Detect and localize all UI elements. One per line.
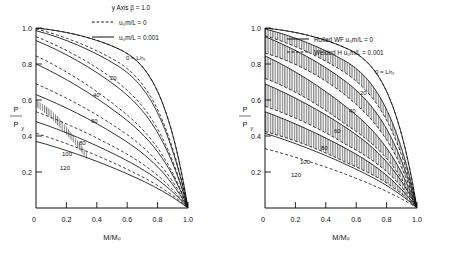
y-tick-0.4-left: 0.4 bbox=[22, 132, 32, 141]
x-tick-0.6-left: 0.6 bbox=[122, 215, 132, 224]
curve-annotation-20-left: 20 bbox=[110, 75, 117, 81]
figure-root: y Axis β = 1.0 u₀m/L = 0 u₀m/L = 0.001 bbox=[0, 0, 458, 261]
legend-label-solid-left: u₀m/L = 0.001 bbox=[119, 34, 159, 41]
curve-annotation-100-right: 100 bbox=[300, 159, 311, 165]
curve-annotations-left: 0 = L/rᵧ 20 40 60 80 100 120 bbox=[60, 55, 145, 171]
x-tick-0.8-right: 0.8 bbox=[382, 215, 392, 224]
y-tick-0.2-left: 0.2 bbox=[22, 168, 32, 177]
y-tick-0.2-right: 0.2 bbox=[251, 168, 261, 177]
curve-annotation-40-right: 40 bbox=[349, 108, 356, 114]
legend-header-left: y Axis β = 1.0 bbox=[112, 4, 151, 12]
svg-text:P: P bbox=[14, 120, 19, 129]
chart-panel-left: y Axis β = 1.0 u₀m/L = 0 u₀m/L = 0.001 bbox=[0, 0, 229, 261]
left-plot-svg: y Axis β = 1.0 u₀m/L = 0 u₀m/L = 0.001 bbox=[0, 0, 229, 261]
curve-annotation-20-right: 20 bbox=[360, 90, 367, 96]
svg-text:P: P bbox=[243, 105, 248, 114]
right-plot-svg: Rolled WF u₀m/L = 0 Welded H u₀m/L = 0.0… bbox=[229, 0, 458, 261]
legend-left: y Axis β = 1.0 u₀m/L = 0 u₀m/L = 0.001 bbox=[92, 4, 159, 41]
y-tick-1.0-right: 1.0 bbox=[251, 24, 261, 33]
chart-panel-right: Rolled WF u₀m/L = 0 Welded H u₀m/L = 0.0… bbox=[229, 0, 458, 261]
curve-annotation-120-left: 120 bbox=[60, 165, 71, 171]
x-tick-0-left: 0 bbox=[32, 215, 36, 224]
curve-annotation-80-right: 80 bbox=[321, 145, 328, 151]
y-tick-0.4-right: 0.4 bbox=[251, 132, 261, 141]
svg-text:y: y bbox=[22, 125, 25, 131]
y-tick-0.6-left: 0.6 bbox=[22, 96, 32, 105]
svg-text:P: P bbox=[14, 105, 19, 114]
curve-annotation-60-left: 60 bbox=[91, 118, 98, 124]
x-tick-0.8-left: 0.8 bbox=[153, 215, 163, 224]
curve-annotation-60-right: 60 bbox=[334, 128, 341, 134]
curve-annotation-0-left: 0 = L/rᵧ bbox=[126, 55, 145, 61]
y-tick-0.8-left: 0.8 bbox=[22, 60, 32, 69]
x-tick-0.2-right: 0.2 bbox=[290, 215, 300, 224]
x-tick-0.2-left: 0.2 bbox=[61, 215, 71, 224]
y-tick-0.8-right: 0.8 bbox=[251, 60, 261, 69]
x-axis-title-right: M/Mₚ bbox=[332, 233, 349, 242]
curve-annotation-40-left: 40 bbox=[93, 92, 100, 98]
curve-annotation-80-left: 80 bbox=[79, 140, 86, 146]
x-ticks-right bbox=[295, 202, 417, 208]
y-axis-title-right: P P y bbox=[239, 105, 254, 131]
x-tick-0.4-right: 0.4 bbox=[321, 215, 331, 224]
curve-annotation-120-right: 120 bbox=[291, 172, 302, 178]
y-tick-1.0-left: 1.0 bbox=[22, 24, 32, 33]
curve-60-solid-left bbox=[36, 64, 188, 208]
curve-annotation-0-right: 0 = L/rᵧ bbox=[375, 69, 394, 75]
x-tick-0.6-right: 0.6 bbox=[351, 215, 361, 224]
curve-100-solid-left bbox=[36, 122, 188, 208]
x-tick-1.0-right: 1.0 bbox=[412, 215, 422, 224]
hatch-band-left-1 bbox=[36, 100, 60, 128]
x-tick-0-right: 0 bbox=[261, 215, 265, 224]
curve-annotation-100-left: 100 bbox=[62, 151, 73, 157]
x-ticks-left bbox=[66, 202, 188, 208]
x-tick-1.0-left: 1.0 bbox=[183, 215, 193, 224]
legend-label-dashed-left: u₀m/L = 0 bbox=[119, 19, 147, 26]
y-tick-0.6-right: 0.6 bbox=[251, 96, 261, 105]
svg-text:y: y bbox=[251, 125, 254, 131]
x-axis-title-left: M/Mₚ bbox=[103, 233, 120, 242]
y-axis-title-left: P P y bbox=[10, 105, 25, 131]
y-ticks-left bbox=[36, 28, 42, 172]
x-tick-0.4-left: 0.4 bbox=[92, 215, 102, 224]
svg-text:P: P bbox=[243, 120, 248, 129]
